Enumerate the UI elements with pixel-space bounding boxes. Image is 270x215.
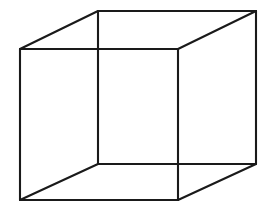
drawing-background (0, 0, 270, 215)
necker-cube-drawing: Necker cube Ambiguous wireframe line dra… (0, 0, 270, 215)
necker-cube-figure: Necker cube Ambiguous wireframe line dra… (0, 0, 270, 215)
